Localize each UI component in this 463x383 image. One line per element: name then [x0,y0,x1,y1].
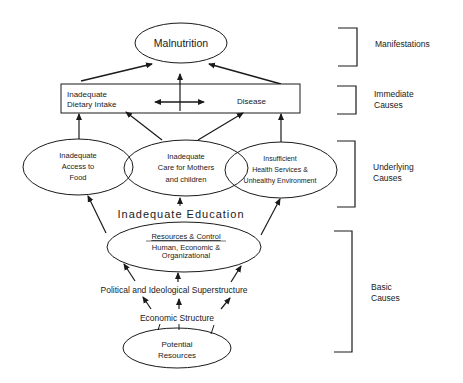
immediate-label-line-2: Causes [374,100,403,110]
health-services-line-1: Insufficient [263,155,296,162]
node-resources-and-control: Resources & Control Human, Economic & Or… [107,222,261,272]
level-underlying-causes: Underlying Causes [337,141,414,207]
lines-potential-to-economic [158,324,214,334]
basic-label-line-2: Causes [371,293,400,303]
dietary-intake-line-1: Inadequate [67,90,108,99]
bracket-icon [337,86,356,114]
node-immediate-causes-box: Inadequate Dietary Intake Disease [61,84,300,113]
malnutrition-causal-diagram: Malnutrition Inadequate Dietary Intake D… [0,0,463,383]
care-mothers-line-1: Inadequate [167,152,205,161]
level-basic-causes: Basic Causes [334,231,400,352]
node-malnutrition: Malnutrition [135,23,227,63]
resources-control-title: Resources & Control [151,232,221,241]
disease-label: Disease [237,97,266,106]
arrow-left [124,264,135,281]
arrow-resources-to-health [261,199,280,235]
bracket-icon [338,28,357,66]
access-food-line-3: Food [69,173,86,182]
arrow-care-to-disease [198,113,243,140]
bracket-icon [337,141,355,207]
arrows-economic-to-superstructure [143,297,230,309]
health-services-line-2: Health Services & [252,166,308,173]
underlying-label-line-1: Underlying [373,162,414,172]
access-food-line-2: Access to [62,162,95,171]
care-mothers-line-2: Care for Mothers [158,163,215,172]
bracket-icon [334,231,352,352]
economic-structure-label: Economic Structure [140,313,214,323]
arrow-disease-to-malnutrition [209,64,281,84]
arrows-superstructure-to-resources [124,264,241,282]
malnutrition-label: Malnutrition [154,37,208,49]
arrow-resources-to-food [88,196,106,233]
dietary-intake-line-2: Dietary Intake [67,100,117,109]
node-access-to-food: Inadequate Access to Food [23,139,133,195]
manifestations-label: Manifestations [375,39,430,49]
resources-control-line-2: Organizational [162,251,211,260]
immediate-label-line-1: Immediate [374,89,414,99]
basic-label-line-1: Basic [371,282,393,292]
arrows-underlying-to-immediate [79,112,281,142]
level-manifestations: Manifestations [338,28,430,66]
node-care-for-mothers: Inadequate Care for Mothers and children [124,140,248,196]
underlying-label-line-2: Causes [373,173,402,183]
arrow-diet-to-malnutrition [81,64,152,81]
arrow-right [221,298,230,309]
inadequate-education-label: Inadequate Education [117,208,244,220]
arrow-left [143,297,151,309]
arrow-right [231,266,241,282]
superstructure-label: Political and Ideological Superstructure [101,285,248,295]
care-mothers-line-3: and children [166,175,207,184]
health-services-line-3: Unhealthy Environment [244,177,317,185]
node-potential-resources: Potential Resources [123,328,231,368]
potential-resources-line-2: Resources [158,351,196,360]
access-food-line-1: Inadequate [59,151,97,160]
potential-resources-line-1: Potential [161,340,192,349]
node-health-services: Insufficient Health Services & Unhealthy… [225,142,337,198]
level-immediate-causes: Immediate Causes [337,86,414,114]
arrow-care-to-diet [126,112,162,140]
